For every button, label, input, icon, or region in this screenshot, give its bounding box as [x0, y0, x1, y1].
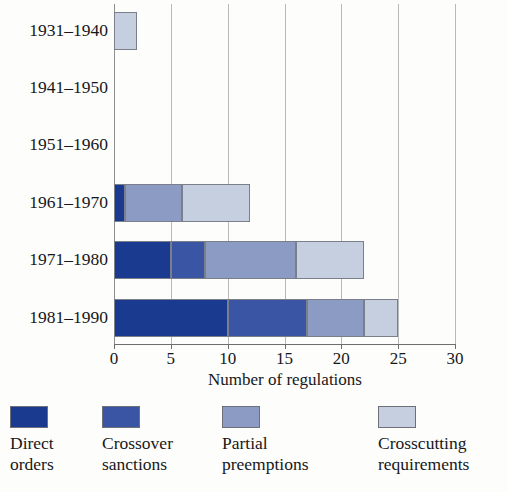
legend-swatch-2: [222, 406, 260, 428]
legend-label-line1: Partial: [222, 433, 268, 453]
gridline-15: [285, 4, 286, 344]
legend-label-3: Crosscuttingrequirements: [378, 433, 469, 475]
legend-label-line1: Direct: [10, 433, 54, 453]
bar-row-1: [114, 69, 455, 107]
gridline-0: [114, 4, 115, 344]
x-tick-label-15: 15: [265, 349, 305, 369]
legend-label-line2: orders: [10, 454, 54, 475]
bar-segment: [114, 241, 171, 279]
legend-swatch-3: [378, 406, 416, 428]
legend-swatch-0: [10, 406, 48, 428]
x-tick-label-30: 30: [435, 349, 475, 369]
category-label-3: 1961–1970: [2, 192, 108, 212]
gridline-25: [398, 4, 399, 344]
bar-segment: [125, 184, 182, 222]
bar-segment: [114, 184, 125, 222]
category-label-4: 1971–1980: [2, 249, 108, 269]
bar-segment: [228, 299, 308, 337]
legend-item-1[interactable]: Crossoversanctions: [102, 406, 173, 475]
gridline-5: [171, 4, 172, 344]
gridline-10: [228, 4, 229, 344]
gridline-30: [455, 4, 456, 344]
legend-label-2: Partialpreemptions: [222, 433, 309, 475]
chart-legend: DirectordersCrossoversanctionsPartialpre…: [0, 406, 507, 492]
legend-label-line1: Crossover: [102, 433, 173, 453]
category-label-2: 1951–1960: [2, 134, 108, 154]
bar-segment: [205, 241, 296, 279]
regulations-bar-chart-figure: 051015202530 1931–19401941–19501951–1960…: [0, 0, 507, 492]
bar-segment: [364, 299, 398, 337]
legend-label-line2: sanctions: [102, 454, 173, 475]
x-tick-label-10: 10: [208, 349, 248, 369]
bar-row-4: [114, 241, 455, 279]
category-label-0: 1931–1940: [2, 20, 108, 40]
bar-segment: [171, 241, 205, 279]
bar-segment: [182, 184, 250, 222]
legend-label-line1: Crosscutting: [378, 433, 466, 453]
bar-segment: [307, 299, 364, 337]
bar-segment: [114, 299, 228, 337]
gridline-20: [341, 4, 342, 344]
bar-row-3: [114, 184, 455, 222]
bar-segment: [296, 241, 364, 279]
legend-item-2[interactable]: Partialpreemptions: [222, 406, 309, 475]
legend-item-0[interactable]: Directorders: [10, 406, 54, 475]
legend-label-line2: requirements: [378, 454, 469, 475]
legend-label-0: Directorders: [10, 433, 54, 475]
bar-row-2: [114, 126, 455, 164]
category-label-5: 1981–1990: [2, 307, 108, 327]
category-label-1: 1941–1950: [2, 77, 108, 97]
legend-item-3[interactable]: Crosscuttingrequirements: [378, 406, 469, 475]
x-axis-title: Number of regulations: [114, 370, 456, 390]
x-tick-label-20: 20: [321, 349, 361, 369]
bar-row-5: [114, 299, 455, 337]
bar-segment: [114, 12, 137, 50]
legend-label-line2: preemptions: [222, 454, 309, 475]
x-tick-label-5: 5: [151, 349, 191, 369]
bar-row-0: [114, 12, 455, 50]
x-tick-label-25: 25: [378, 349, 418, 369]
legend-swatch-1: [102, 406, 140, 428]
chart-plot-area: 051015202530 1931–19401941–19501951–1960…: [0, 0, 507, 348]
x-tick-label-0: 0: [94, 349, 134, 369]
legend-label-1: Crossoversanctions: [102, 433, 173, 475]
